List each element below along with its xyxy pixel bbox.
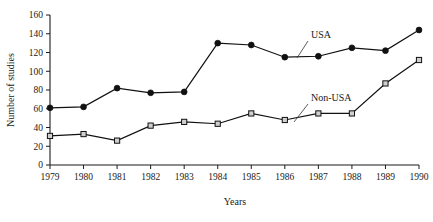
data-point-usa	[349, 45, 355, 51]
non-usa-series-label: Non-USA	[311, 92, 352, 103]
usa-series-label: USA	[311, 29, 332, 40]
data-point-usa	[114, 85, 120, 91]
data-point-usa	[416, 27, 422, 33]
series-polylines	[50, 30, 419, 141]
y-tick-label: 120	[29, 48, 44, 58]
data-point-usa	[383, 48, 389, 54]
data-point-non-usa	[316, 111, 321, 116]
y-tick-label: 0	[38, 160, 43, 170]
x-tick-label: 1990	[410, 172, 429, 182]
data-point-non-usa	[416, 57, 421, 62]
x-tick-label: 1985	[242, 172, 261, 182]
data-point-non-usa	[81, 131, 86, 136]
x-axis-title: Years	[224, 196, 246, 207]
y-tick-label: 80	[34, 85, 44, 95]
data-point-non-usa	[148, 123, 153, 128]
x-tick-label: 1987	[309, 172, 328, 182]
usa-leader-line	[297, 41, 308, 58]
data-point-usa	[315, 53, 321, 59]
data-point-usa	[248, 42, 254, 48]
data-point-non-usa	[47, 133, 52, 138]
x-tick-label: 1989	[376, 172, 395, 182]
y-tick-label: 160	[29, 10, 44, 20]
data-point-usa	[181, 89, 187, 95]
series-line-usa	[50, 30, 419, 108]
x-axis-tick-labels: 1979198019811982198319841985198619871988…	[41, 172, 429, 182]
data-point-non-usa	[249, 111, 254, 116]
x-tick-label: 1984	[208, 172, 227, 182]
data-point-usa	[47, 105, 53, 111]
y-axis-title: Number of studies	[5, 53, 16, 127]
line-chart: 020406080100120140160 197919801981198219…	[0, 0, 433, 222]
chart-canvas: 020406080100120140160 197919801981198219…	[0, 0, 433, 222]
x-axis-ticks	[50, 165, 419, 169]
x-tick-label: 1988	[342, 172, 361, 182]
y-tick-label: 140	[29, 29, 44, 39]
non-usa-leader-line	[294, 104, 308, 122]
y-axis-tick-labels: 020406080100120140160	[29, 10, 44, 170]
y-tick-label: 40	[34, 123, 44, 133]
y-tick-label: 20	[34, 142, 44, 152]
x-tick-label: 1983	[175, 172, 194, 182]
x-tick-label: 1980	[74, 172, 93, 182]
y-tick-label: 100	[29, 67, 44, 77]
y-tick-label: 60	[34, 104, 44, 114]
data-point-usa	[81, 104, 87, 110]
data-point-non-usa	[215, 121, 220, 126]
data-point-non-usa	[349, 111, 354, 116]
x-tick-label: 1981	[108, 172, 127, 182]
series-line-non-usa	[50, 60, 419, 141]
x-tick-label: 1986	[275, 172, 294, 182]
data-point-usa	[148, 90, 154, 96]
data-point-usa	[282, 54, 288, 60]
data-point-non-usa	[282, 117, 287, 122]
data-point-non-usa	[383, 81, 388, 86]
y-axis-ticks	[46, 15, 50, 165]
data-point-non-usa	[114, 138, 119, 143]
data-point-usa	[215, 40, 221, 46]
x-tick-label: 1979	[41, 172, 60, 182]
data-point-non-usa	[182, 119, 187, 124]
x-tick-label: 1982	[141, 172, 160, 182]
